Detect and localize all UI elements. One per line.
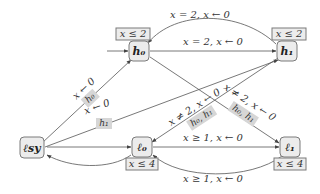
node-l1: ℓ₁ x ≤ 4 — [274, 137, 306, 170]
edge-label: x ≥ 1, x ← 0 — [183, 132, 243, 143]
node-label: h₁ — [281, 45, 294, 58]
node-h1: x ≤ 2 h₁ — [272, 28, 306, 61]
node-l0: ℓ₀ x ≤ 4 — [126, 137, 158, 170]
node-lsy: ℓsy — [20, 137, 44, 158]
node-h0: x ≤ 2 h₀ — [116, 28, 150, 61]
edge-label: x ≥ 1, x ← 0 — [183, 173, 243, 184]
edge-l1-to-l0-bottom: x ≥ 1, x ← 0 — [153, 155, 282, 184]
node-label: ℓ₁ — [285, 141, 295, 154]
invariant-label: x ≤ 4 — [129, 158, 156, 169]
invariant-label: x ≤ 2 — [276, 28, 303, 39]
edge-l0-to-l1: x ≥ 1, x ← 0 — [153, 132, 279, 147]
node-label: ℓ₀ — [137, 141, 147, 154]
edge-label: x = 2, x ← 0 — [170, 9, 230, 20]
timed-automaton-diagram: x = 2, x ← 0 x = 2, x ← 0 x ← 0 h₀ x ← 0… — [0, 0, 320, 194]
invariant-label: x ≤ 4 — [277, 158, 304, 169]
invariant-label: x ≤ 2 — [120, 28, 147, 39]
edge-lsy-to-h0: x ← 0 h₀ — [42, 60, 131, 143]
node-label: h₀ — [133, 45, 146, 58]
edge-label: x = 2, x ← 0 — [183, 36, 243, 47]
node-label: ℓsy — [23, 142, 42, 155]
edge-l0-to-lsy — [47, 155, 131, 166]
edge-h0-to-h1: x = 2, x ← 0 — [150, 36, 276, 51]
edge-highlight: h₁ — [99, 118, 108, 128]
